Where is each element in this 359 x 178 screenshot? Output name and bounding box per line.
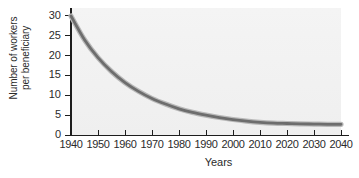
y-tick-mark [65,75,71,76]
x-tick-mark [314,130,315,136]
y-axis-title-line-2: per beneficiary [20,3,32,113]
y-tick-mark [65,35,71,36]
x-tick-mark [287,130,288,136]
x-tick-mark [125,130,126,136]
y-tick-label: 30 [35,10,61,21]
y-tick-label: 5 [35,109,61,120]
y-axis-title-line-1: Number of workers [8,3,20,113]
chart-figure: Number of workers per beneficiary 051015… [0,0,359,178]
plot-area [71,8,341,135]
y-tick-label: 20 [35,50,61,61]
y-tick-label: 10 [35,89,61,100]
y-tick-label: 25 [35,30,61,41]
y-tick-label: 15 [35,69,61,80]
x-tick-mark [260,130,261,136]
y-tick-mark [65,55,71,56]
x-tick-mark [341,130,342,136]
x-tick-mark [71,130,72,136]
y-tick-mark [65,15,71,16]
x-axis-title-text: Years [205,156,233,168]
y-axis-line [70,8,72,136]
x-tick-mark [233,130,234,136]
x-tick-mark [152,130,153,136]
x-tick-mark [206,130,207,136]
y-tick-mark [65,115,71,116]
x-tick-label: 2040 [324,138,358,150]
x-axis-title: Years [0,156,359,168]
x-tick-mark [179,130,180,136]
x-tick-mark [98,130,99,136]
x-axis-line [70,135,349,137]
y-tick-mark [65,95,71,96]
